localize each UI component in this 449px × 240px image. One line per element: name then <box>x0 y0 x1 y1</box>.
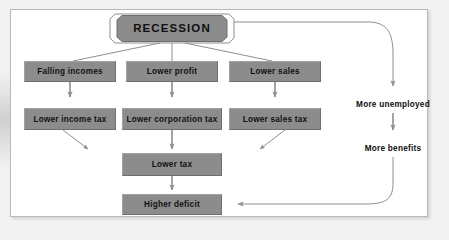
node-label: Higher deficit <box>144 200 200 209</box>
node-lower-income-tax[interactable]: Lower income tax <box>24 108 116 130</box>
node-label: Falling incomes <box>37 67 103 76</box>
recession-node-label: RECESSION <box>126 22 218 34</box>
node-lower-sales[interactable]: Lower sales <box>229 61 321 82</box>
node-label: Lower tax <box>152 160 192 169</box>
node-label: Lower sales <box>250 67 300 76</box>
node-higher-deficit[interactable]: Higher deficit <box>122 194 222 215</box>
node-label: Lower income tax <box>33 115 106 124</box>
label-more-benefits: More benefits <box>345 144 441 153</box>
node-lower-tax[interactable]: Lower tax <box>122 153 222 176</box>
node-lower-sales-tax[interactable]: Lower sales tax <box>229 108 321 130</box>
node-label: Lower profit <box>147 67 197 76</box>
label-more-unemployed: More unemployed <box>345 100 441 109</box>
node-falling-incomes[interactable]: Falling incomes <box>24 61 116 82</box>
node-label: Lower corporation tax <box>126 115 217 124</box>
node-lower-profit[interactable]: Lower profit <box>126 61 218 82</box>
node-lower-corporation-tax[interactable]: Lower corporation tax <box>122 108 222 130</box>
node-label: Lower sales tax <box>243 115 308 124</box>
diagram-screenshot: RECESSION Falling incomes Lower profit L… <box>0 0 449 240</box>
